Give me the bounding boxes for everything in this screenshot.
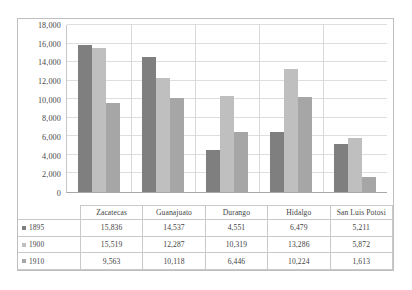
- bar-1895-hidalgo[interactable]: [270, 132, 284, 192]
- table-cell: 13,286: [268, 236, 330, 253]
- bar-group-guanajuato: [131, 25, 195, 192]
- table-column-header: San Luis Potosi: [330, 206, 392, 220]
- y-axis-tick-label: 12,000: [38, 77, 61, 86]
- legend-label: 1910: [29, 257, 44, 266]
- bar-1895-san-luis-potosi[interactable]: [334, 144, 348, 192]
- bar-group-durango: [195, 25, 259, 192]
- table-cell: 1,613: [330, 253, 392, 270]
- table-cell: 6,446: [205, 253, 267, 270]
- table-row: 189515,83614,5374,5516,4795,211: [18, 220, 393, 237]
- y-axis-tick-label: 10,000: [38, 95, 61, 104]
- bar-1900-guanajuato[interactable]: [156, 78, 170, 192]
- legend-swatch-icon: [22, 243, 26, 247]
- bar-1895-zacatecas[interactable]: [78, 45, 92, 192]
- table-column-header: Hidalgo: [268, 206, 330, 220]
- bar-1900-hidalgo[interactable]: [284, 69, 298, 192]
- table-cell: 5,872: [330, 236, 392, 253]
- legend-swatch-icon: [22, 259, 26, 263]
- table-cell: 4,551: [205, 220, 267, 237]
- y-axis-tick-label: 2,000: [42, 170, 61, 179]
- table-cell: 10,118: [143, 253, 205, 270]
- y-axis-tick-label: 0: [57, 189, 61, 198]
- table-cell: 15,836: [80, 220, 142, 237]
- table-row: 190015,51912,28710,31913,2865,872: [18, 236, 393, 253]
- bar-1910-san-luis-potosi[interactable]: [362, 177, 376, 192]
- bar-1910-zacatecas[interactable]: [106, 103, 120, 192]
- table-cell: 9,563: [80, 253, 142, 270]
- chart-data-table: ZacatecasGuanajuatoDurangoHidalgoSan Lui…: [18, 205, 393, 270]
- y-axis-tick-label: 4,000: [42, 151, 61, 160]
- legend-entry-1900[interactable]: 1900: [18, 236, 80, 253]
- plot-region: 02,0004,0006,0008,00010,00012,00014,0001…: [18, 19, 393, 207]
- legend-entry-1910[interactable]: 1910: [18, 253, 80, 270]
- table-cell: 12,287: [143, 236, 205, 253]
- bar-group-san-luis-potosi: [323, 25, 387, 192]
- plot-area: [66, 25, 387, 193]
- legend-label: 1900: [29, 240, 44, 249]
- data-table: ZacatecasGuanajuatoDurangoHidalgoSan Lui…: [18, 205, 393, 270]
- table-cell: 10,224: [268, 253, 330, 270]
- bar-1910-hidalgo[interactable]: [298, 97, 312, 192]
- y-axis-tick-label: 6,000: [42, 133, 61, 142]
- bar-1900-durango[interactable]: [220, 96, 234, 192]
- legend-label: 1895: [29, 223, 44, 232]
- bar-group-zacatecas: [67, 25, 131, 192]
- bar-group-hidalgo: [259, 25, 323, 192]
- bar-1910-durango[interactable]: [234, 132, 248, 192]
- table-row: 19109,56310,1186,44610,2241,613: [18, 253, 393, 270]
- table-cell: 6,479: [268, 220, 330, 237]
- bar-1900-zacatecas[interactable]: [92, 48, 106, 192]
- bar-groups: [67, 25, 387, 192]
- y-axis-tick-label: 8,000: [42, 114, 61, 123]
- table-cell: 14,537: [143, 220, 205, 237]
- bar-1910-guanajuato[interactable]: [170, 98, 184, 192]
- y-axis-tick-label: 18,000: [38, 21, 61, 30]
- y-axis: 02,0004,0006,0008,00010,00012,00014,0001…: [18, 19, 66, 207]
- table-column-header: Zacatecas: [80, 206, 142, 220]
- table-column-header: Guanajuato: [143, 206, 205, 220]
- bar-1895-guanajuato[interactable]: [142, 57, 156, 192]
- table-column-header: Durango: [205, 206, 267, 220]
- chart-container: 02,0004,0006,0008,00010,00012,00014,0001…: [17, 18, 394, 271]
- table-body: 189515,83614,5374,5516,4795,211190015,51…: [18, 220, 393, 270]
- table-corner-cell: [18, 206, 80, 220]
- y-axis-tick-label: 16,000: [38, 39, 61, 48]
- table-cell: 15,519: [80, 236, 142, 253]
- table-header-row: ZacatecasGuanajuatoDurangoHidalgoSan Lui…: [18, 206, 393, 220]
- bar-1895-durango[interactable]: [206, 150, 220, 192]
- y-axis-tick-label: 14,000: [38, 58, 61, 67]
- table-cell: 5,211: [330, 220, 392, 237]
- legend-entry-1895[interactable]: 1895: [18, 220, 80, 237]
- table-cell: 10,319: [205, 236, 267, 253]
- legend-swatch-icon: [22, 226, 26, 230]
- bar-1900-san-luis-potosi[interactable]: [348, 138, 362, 192]
